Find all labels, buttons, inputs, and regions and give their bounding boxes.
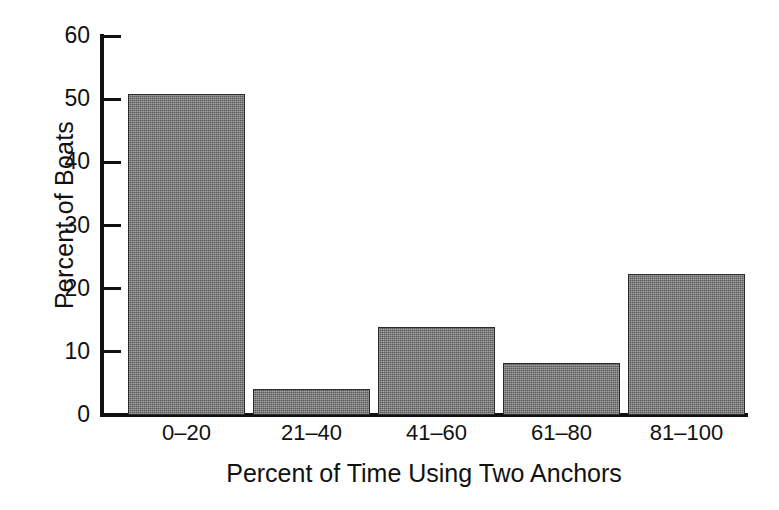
y-axis-tick-label: 60: [32, 24, 90, 47]
bar: [253, 389, 370, 415]
x-axis-title: Percent of Time Using Two Anchors: [100, 458, 748, 488]
y-axis-tick-label: 50: [32, 87, 90, 110]
y-axis-tick-label: 10: [32, 340, 90, 363]
x-axis-tick-label: 41–60: [378, 421, 495, 445]
x-axis-tick-label: 21–40: [253, 421, 370, 445]
y-axis-tick-label: 40: [32, 150, 90, 173]
x-axis-tick-label: 0–20: [128, 421, 245, 445]
plot-area: [100, 36, 745, 415]
bar: [378, 327, 495, 415]
x-axis-tick-label: 81–100: [628, 421, 745, 445]
y-axis-tick-label: 30: [32, 214, 90, 237]
bar: [503, 363, 620, 415]
y-axis-tick-label: 20: [32, 277, 90, 300]
histogram-figure: Percent of Boats 0102030405060 0–2021–40…: [0, 0, 779, 510]
bar: [128, 94, 245, 415]
y-axis-tick-label: 0: [32, 403, 90, 426]
bar: [628, 274, 745, 415]
x-axis-tick-label: 61–80: [503, 421, 620, 445]
